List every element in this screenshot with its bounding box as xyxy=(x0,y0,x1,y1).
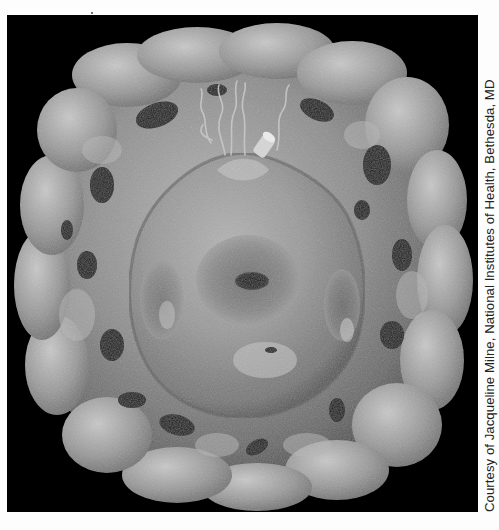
photo-credit: Courtesy of Jacqueline Milne, National I… xyxy=(481,15,499,512)
inner-core xyxy=(130,153,365,417)
scan-speck xyxy=(91,12,93,14)
figure-image xyxy=(7,15,478,512)
particle-rendering xyxy=(7,15,478,512)
